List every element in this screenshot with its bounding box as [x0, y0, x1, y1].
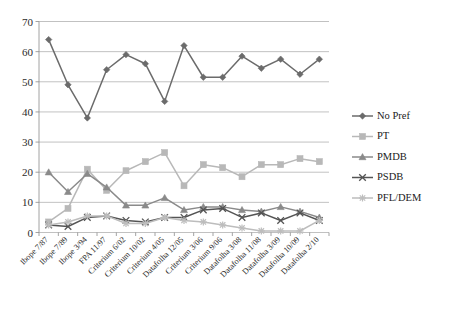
y-tick-label: 30 [22, 136, 34, 148]
marker-diamond [161, 98, 167, 104]
marker-square [200, 162, 206, 168]
marker-square [65, 205, 71, 211]
legend-item-no-pref[interactable]: No Pref [352, 110, 410, 121]
y-tick-label: 60 [22, 46, 34, 58]
marker-square [360, 134, 366, 140]
marker-diamond [45, 36, 51, 42]
marker-square [123, 168, 129, 174]
legend-item-pmdb[interactable]: PMDB [352, 151, 407, 162]
legend-item-pt[interactable]: PT [352, 130, 390, 141]
marker-square [297, 156, 303, 162]
y-tick-label: 70 [22, 16, 34, 28]
series-no-pref [45, 36, 322, 121]
marker-triangle [277, 203, 284, 209]
marker-diamond [142, 61, 148, 67]
y-tick-label: 40 [22, 106, 34, 118]
marker-diamond [65, 82, 71, 88]
x-axis-labels: Ibope 7/87Ibope 7/89Ibope 3/94FPA 11/97C… [18, 234, 320, 279]
y-tick-label: 50 [22, 76, 34, 88]
marker-diamond [84, 115, 90, 121]
marker-square [220, 165, 226, 171]
legend-label: PMDB [377, 151, 407, 162]
series-pfl-dem [45, 212, 323, 234]
legend-label: PFL/DEM [377, 192, 422, 203]
legend-item-pfl-dem[interactable]: PFL/DEM [352, 192, 422, 203]
marker-square [142, 159, 148, 165]
marker-square [316, 159, 322, 165]
y-tick-label: 10 [22, 196, 34, 208]
y-axis-labels: 010203040506070 [22, 16, 39, 239]
marker-square [162, 150, 168, 156]
y-tick-label: 0 [28, 227, 34, 239]
legend-item-psdb[interactable]: PSDB [352, 171, 403, 182]
y-tick-label: 20 [22, 166, 34, 178]
line-chart: 010203040506070Ibope 7/87Ibope 7/89Ibope… [0, 0, 466, 311]
marker-square [181, 183, 187, 189]
legend-label: PSDB [377, 171, 403, 182]
legend: No PrefPTPMDBPSDBPFL/DEM [352, 110, 422, 203]
marker-square [258, 162, 264, 168]
legend-label: PT [377, 130, 390, 141]
marker-square [278, 162, 284, 168]
marker-triangle [161, 194, 168, 200]
marker-diamond [359, 113, 365, 119]
marker-square [239, 174, 245, 180]
gridlines-group [39, 22, 329, 233]
chart-canvas: 010203040506070Ibope 7/87Ibope 7/89Ibope… [0, 0, 466, 311]
legend-label: No Pref [377, 110, 410, 121]
